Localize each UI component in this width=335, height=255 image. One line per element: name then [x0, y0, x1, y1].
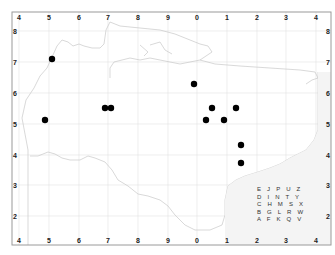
- svg-text:4: 4: [17, 237, 21, 244]
- svg-text:2: 2: [255, 14, 259, 21]
- y-axis-left-labels: 87 65 43 2: [13, 28, 17, 220]
- svg-text:6: 6: [77, 237, 81, 244]
- svg-text:0: 0: [195, 237, 199, 244]
- svg-text:4: 4: [17, 14, 21, 21]
- svg-text:2: 2: [255, 237, 259, 244]
- svg-text:6: 6: [326, 90, 330, 97]
- svg-text:8: 8: [136, 237, 140, 244]
- record-dot: [238, 160, 244, 166]
- svg-text:5: 5: [47, 14, 51, 21]
- svg-text:3: 3: [326, 182, 330, 189]
- record-dot: [191, 81, 197, 87]
- svg-text:6: 6: [77, 14, 81, 21]
- letter-row: A F K Q V: [257, 216, 297, 224]
- svg-text:7: 7: [106, 14, 110, 21]
- svg-text:8: 8: [136, 14, 140, 21]
- svg-text:6: 6: [13, 90, 17, 97]
- svg-text:8: 8: [13, 28, 17, 35]
- svg-text:3: 3: [284, 237, 288, 244]
- svg-text:7: 7: [326, 59, 330, 66]
- svg-text:4: 4: [314, 237, 318, 244]
- record-points: [42, 56, 244, 166]
- record-dot: [108, 105, 114, 111]
- svg-text:4: 4: [326, 152, 330, 159]
- record-dot: [238, 142, 244, 148]
- record-dot: [221, 117, 227, 123]
- record-dot: [203, 117, 209, 123]
- letter-row: C H M S X: [257, 201, 297, 209]
- svg-text:3: 3: [284, 14, 288, 21]
- svg-text:5: 5: [326, 121, 330, 128]
- svg-text:3: 3: [13, 182, 17, 189]
- svg-text:2: 2: [13, 213, 17, 220]
- letter-row: B G L R W: [257, 209, 297, 217]
- x-axis-top-labels: 45 67 89 01 23 4: [17, 14, 318, 21]
- record-dot: [209, 105, 215, 111]
- svg-text:2: 2: [326, 213, 330, 220]
- svg-text:1: 1: [225, 14, 229, 21]
- svg-text:7: 7: [13, 59, 17, 66]
- record-dot: [233, 105, 239, 111]
- record-dot: [49, 56, 55, 62]
- svg-text:4: 4: [314, 14, 318, 21]
- svg-text:5: 5: [47, 237, 51, 244]
- record-dot: [42, 117, 48, 123]
- svg-text:4: 4: [13, 152, 17, 159]
- svg-text:8: 8: [326, 28, 330, 35]
- svg-text:1: 1: [225, 237, 229, 244]
- svg-text:0: 0: [195, 14, 199, 21]
- svg-text:9: 9: [166, 14, 170, 21]
- letter-row: D I N T Y: [257, 194, 297, 202]
- record-dot: [102, 105, 108, 111]
- svg-text:7: 7: [106, 237, 110, 244]
- grid-letter-key: E J P U Z D I N T Y C H M S X B G L R W …: [257, 186, 297, 224]
- letter-row: E J P U Z: [257, 186, 297, 194]
- svg-text:9: 9: [166, 237, 170, 244]
- svg-text:5: 5: [13, 121, 17, 128]
